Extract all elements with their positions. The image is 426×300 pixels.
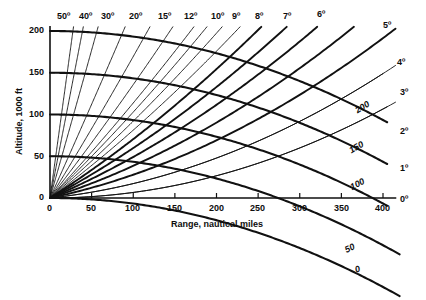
y-tick-label-200: 200 [22,26,44,35]
angle-label-40deg: 40º [79,12,92,21]
angle-label-6deg: 6º [317,10,325,19]
contour-100kft [50,115,387,206]
x-axis-title: Range, nautical miles [171,220,263,229]
x-tick-label-200: 200 [209,204,224,213]
x-tick-label-350: 350 [334,204,349,213]
angle-label-10deg: 10º [211,12,224,21]
radial-5deg [50,27,287,198]
elevation-radial-lines-thin [50,27,395,198]
x-tick-label-250: 250 [250,204,265,213]
axis-lines-path [50,27,395,198]
radial-40deg [50,27,83,198]
x-tick-label-0: 0 [47,204,52,213]
y-tick-label-150: 150 [22,68,44,77]
contour-200kft [50,31,387,122]
angle-label-7deg: 7º [283,12,291,21]
angle-label-4deg: 4º [397,58,405,67]
angle-label-2deg: 2º [400,127,408,136]
x-tick-label-100: 100 [125,204,140,213]
angle-label-20deg: 20º [129,12,142,21]
angle-label-15deg: 15º [158,12,171,21]
x-tick-label-50: 50 [86,204,96,213]
chart-plot-area [0,0,426,300]
angle-label-50deg: 50º [57,12,70,21]
x-tick-label-400: 400 [375,204,390,213]
x-tick-label-150: 150 [167,204,182,213]
x-tick-label-300: 300 [292,204,307,213]
radial-15deg [50,27,150,198]
angle-label-0deg: 0º [400,195,408,204]
y-axis-title: Altitude, 1000 ft [14,88,24,155]
angle-label-8deg: 8º [255,12,263,21]
chart-figure: 200 150 100 50 0 Altitude, 1000 ft 0 50 … [0,0,426,300]
altitude-contour-curves [50,31,400,296]
elevation-radial-lines-thick [50,27,395,198]
radial-1deg [50,65,395,198]
axis-lines [50,27,395,198]
angle-label-30deg: 30º [101,12,114,21]
angle-label-5deg: 5º [383,21,391,30]
radial-12deg [50,27,173,198]
angle-label-1deg: 1º [400,164,408,173]
radial-10deg [50,27,194,198]
y-tick-label-0: 0 [22,193,44,202]
angle-label-9deg: 9º [232,12,240,21]
y-tick-label-50: 50 [22,152,44,161]
y-tick-label-100: 100 [22,110,44,119]
angle-label-3deg: 3º [400,88,408,97]
angle-label-12deg: 12º [184,12,197,21]
